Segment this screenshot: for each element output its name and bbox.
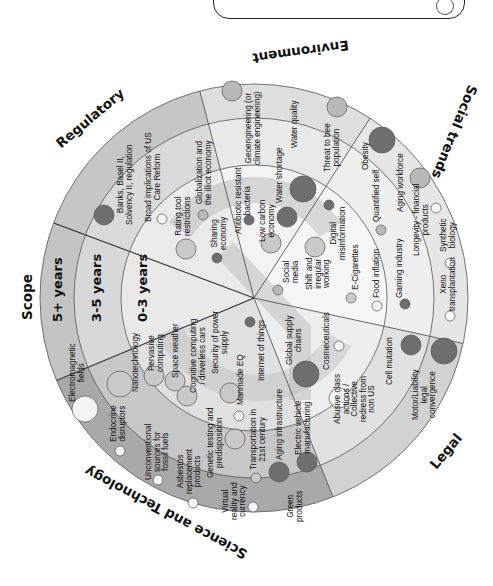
risk-label: Synthetic biology <box>440 218 457 252</box>
risk-label: Quantified self <box>373 170 382 222</box>
risk-label: Aging workforce <box>397 153 406 212</box>
risk-label: E-Cigarettes <box>352 244 361 290</box>
risk-label: Longevity - financial products <box>413 184 430 256</box>
risk-label: Water quality <box>291 101 300 148</box>
risk-label: Gaming industry <box>396 238 405 298</box>
risk-label: Cell mutation <box>386 337 395 385</box>
risk-label: Geoengineering (or climate engineering) <box>245 91 262 165</box>
risk-label: Rating tool restrictions <box>175 196 192 236</box>
category-scope: Scope <box>19 274 35 320</box>
risk-label: Globalization and the illicit economy <box>196 140 213 205</box>
risk-label: Abusive class actions / Collective redre… <box>334 374 377 424</box>
ring-label-0to3: 0-3 years <box>135 254 150 322</box>
risk-label: Obesity <box>362 142 371 170</box>
risk-label: Low carbon economy <box>259 200 276 242</box>
risk-label: Food inflation <box>373 249 382 298</box>
risk-label: Water shortage <box>276 147 285 203</box>
risk-label: Endocrine disruptors <box>110 405 127 442</box>
risk-label: Unconventional sources for fossil fuels <box>145 424 171 480</box>
risk-label: Asbestos replacement products <box>177 449 203 494</box>
risk-label: Threat to bee population <box>324 123 341 172</box>
risk-label: Pervasive computing <box>148 334 165 372</box>
risk-label: Cognitive computing / driverless cars <box>190 319 207 393</box>
risk-label: Green products <box>287 491 304 522</box>
risk-label: Banks, Basel II, Solvency II, regulation <box>117 144 134 225</box>
risk-label: Xeno transplantation <box>440 257 457 311</box>
risk-label: Virtual reality and currency <box>222 482 248 520</box>
risk-label: Space weather <box>172 323 181 378</box>
risk-label: Electromagnetic fields <box>69 343 86 402</box>
risk-label: Social media <box>283 261 300 283</box>
risk-label: Shift and irregular working <box>306 258 332 290</box>
risk-label: Internet of things <box>258 320 267 381</box>
risk-label: Manmade EQ <box>237 354 246 405</box>
risk-label: Sharing economy <box>211 217 228 250</box>
risk-label: Cosmeceuticals <box>323 312 332 370</box>
risk-label: Transportation in 21st century <box>250 409 267 470</box>
risk-label: Genetic testing and predisposition <box>207 407 224 478</box>
risk-label: Aging infrastructure <box>276 389 285 460</box>
risk-label: Motor/Liability legal convergence <box>412 369 438 420</box>
risk-label: Global supply chains <box>286 315 303 365</box>
ring-label-5plus: 5+ years <box>50 257 65 322</box>
risk-label: Broad implications of US Care Reform <box>145 132 162 222</box>
ring-label-3to5: 3-5 years <box>89 254 104 322</box>
risk-label: Security of power supply <box>212 311 229 374</box>
risk-label: Electric vehicle manufacturing <box>295 400 312 455</box>
risk-label: Digital misinformation <box>330 207 347 260</box>
risk-label: Nanotechnology <box>132 333 141 392</box>
risk-label: Antibiotic resistant bacteria <box>235 168 252 234</box>
